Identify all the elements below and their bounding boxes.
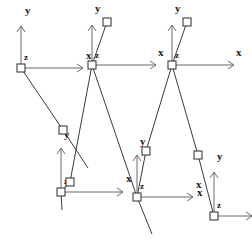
kinematic-diagram: xyzxyzxyzxyzxyzxyz [0, 0, 252, 250]
joint-12 [57, 188, 65, 196]
frame-1-x-label: x [86, 49, 92, 61]
joint-3 [88, 61, 96, 69]
frame-3-z-label: z [175, 50, 179, 60]
frame-6-y-label: y [217, 150, 223, 162]
frame-2-y-label: y [95, 2, 101, 14]
frame-2: xyz [88, 2, 164, 69]
joint-1 [17, 64, 25, 72]
frame-3-x-label: x [236, 46, 242, 58]
joint-2 [59, 126, 67, 134]
joint-8 [168, 61, 176, 69]
frame-6: xyz [197, 150, 252, 220]
frame-6-z-label: z [217, 200, 221, 210]
joint-6 [133, 193, 141, 201]
joint-10 [194, 151, 202, 159]
link-11 [172, 65, 198, 155]
joint-9 [183, 18, 191, 26]
link-9 [146, 65, 172, 151]
diagram-canvas: xyzxyzxyzxyzxyzxyz [0, 0, 252, 250]
frame-2-x-label: x [158, 46, 164, 58]
link-4 [70, 65, 92, 182]
frame-1-z-label: z [24, 52, 28, 62]
frame-4-x-label: x [126, 172, 132, 184]
link-group [21, 22, 214, 234]
frame-5: xyz [133, 135, 202, 201]
frame-group: xyzxyzxyzxyzxyzxyz [17, 2, 252, 220]
frame-3-y-label: y [175, 2, 181, 14]
frame-5-z-label: z [140, 181, 144, 191]
frame-3: xyz [168, 2, 242, 69]
joint-7 [142, 147, 150, 155]
frame-2-z-label: z [95, 50, 99, 60]
frame-1-y-label: y [25, 4, 31, 16]
frame-5-y-label: y [140, 135, 146, 147]
frame-1: xyz [17, 4, 92, 72]
joint-5 [66, 178, 74, 186]
joint-4 [103, 18, 111, 26]
link-1 [21, 68, 63, 130]
joint-11 [210, 212, 218, 220]
frame-6-x-label: x [197, 186, 203, 198]
link-13 [137, 197, 152, 234]
